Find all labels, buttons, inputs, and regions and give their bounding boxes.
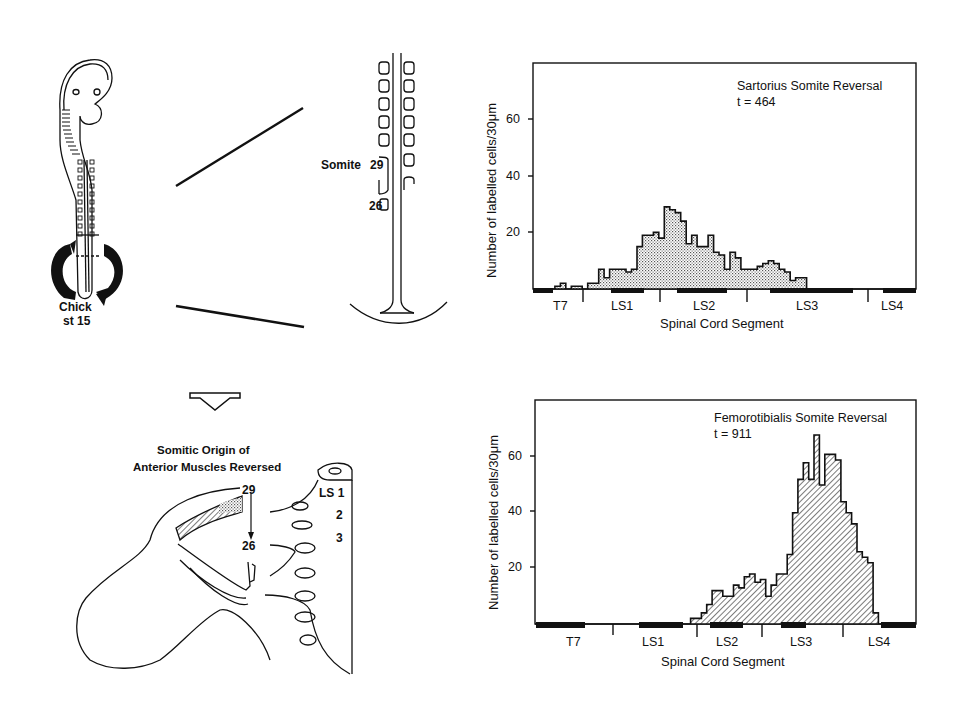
chart1-xtick-ls4: LS4 <box>881 299 903 313</box>
panel-b-title-line2: Anterior Muscles Reversed <box>133 461 281 473</box>
chart2-ytick-60: 60 <box>508 449 522 463</box>
zoom-line-bottom <box>176 306 304 327</box>
figure-artwork <box>0 0 961 706</box>
chart2-xtick-ls2: LS2 <box>716 635 738 649</box>
chart1-ylabel: Number of labelled cells/30μm <box>484 103 499 278</box>
chart2-xtick-ls4: LS4 <box>868 635 890 649</box>
limb-diagram-drawing <box>77 463 352 674</box>
chart2-xtick-ls3: LS3 <box>790 635 812 649</box>
chart2-ytick-40: 40 <box>508 504 522 518</box>
chick-label: Chick <box>59 300 92 314</box>
somite-label: Somite <box>321 158 361 172</box>
chart1-xtick-t7: T7 <box>553 299 568 313</box>
rotation-arrows-icon <box>51 240 123 306</box>
chart2-xtick-ls1: LS1 <box>642 635 664 649</box>
chart2-ylabel: Number of labelled cells/30μm <box>486 435 501 610</box>
origin-26-label: 26 <box>242 539 255 553</box>
chart1-xlabel: Spinal Cord Segment <box>660 316 784 331</box>
chart2-title: Femorotibialis Somite Reversal <box>714 411 887 425</box>
origin-29-label: 29 <box>242 483 255 497</box>
down-arrow-icon <box>190 393 240 410</box>
chart2-xlabel: Spinal Cord Segment <box>661 654 785 669</box>
segment-ls1-label: LS 1 <box>319 486 344 500</box>
chart1-xtick-ls3: LS3 <box>796 299 818 313</box>
chart1-title: Sartorius Somite Reversal <box>737 79 882 93</box>
chick-embryo-drawing <box>60 60 112 299</box>
stage-label: st 15 <box>63 314 90 328</box>
chart1-xtick-ls2: LS2 <box>693 299 715 313</box>
chart1-ytick-20: 20 <box>506 225 520 239</box>
chart1-subtitle: t = 464 <box>737 95 776 109</box>
chart-sartorius-bars <box>533 207 916 289</box>
histogram-series <box>533 207 916 289</box>
chart2-subtitle: t = 911 <box>714 427 752 441</box>
chart1-ytick-60: 60 <box>506 112 520 126</box>
histogram-series <box>535 435 916 624</box>
somite-29-label: 29 <box>370 158 383 172</box>
chart2-ytick-20: 20 <box>508 560 522 574</box>
segment-2-label: 2 <box>336 508 343 522</box>
somite-26-label: 26 <box>369 199 382 213</box>
chart-femorotibialis-bars <box>535 435 916 624</box>
panel-b-title-line1: Somitic Origin of <box>157 444 250 456</box>
chart1-ytick-40: 40 <box>506 169 520 183</box>
zoom-line-top <box>176 108 303 186</box>
somite-column-drawing <box>350 53 447 323</box>
segment-3-label: 3 <box>336 531 343 545</box>
chart2-xtick-t7: T7 <box>566 635 581 649</box>
chart1-xtick-ls1: LS1 <box>611 299 633 313</box>
